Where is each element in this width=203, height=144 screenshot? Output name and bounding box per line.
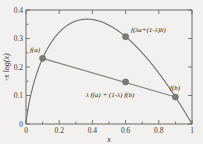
x-tick-label: 1	[190, 126, 194, 135]
x-tick-label: 0.6	[121, 126, 131, 135]
label-lambda-combo-f: λ f(a) + (1-λ) f(b)	[85, 91, 135, 99]
label-fa: f(a)	[30, 46, 41, 54]
x-axis-ticks	[26, 10, 192, 124]
y-tick-label: 0.3	[14, 34, 24, 43]
x-tick-label: 0	[24, 126, 28, 135]
y-axis-title: -x log(x)	[2, 53, 11, 81]
chart-figure: 0 0.1 0.2 0.3 0.4 0 0.2 0.4 0.6 0.8 1 x …	[0, 0, 203, 144]
point-marker-combo-of-f	[123, 79, 129, 85]
y-tick-label: 0	[19, 120, 23, 129]
point-marker-fa	[40, 55, 46, 61]
y-tick-label: 0.1	[14, 91, 24, 100]
y-axis-ticks	[26, 10, 192, 124]
x-tick-label: 0.8	[154, 126, 164, 135]
label-fb: f(b)	[170, 84, 181, 92]
x-tick-label: 0.2	[55, 126, 65, 135]
plot-frame	[26, 10, 192, 124]
concave-function-curve	[26, 19, 192, 124]
label-f-lambda-combo: f(λa+(1-λ)b)	[131, 26, 167, 34]
x-tick-label: 0.4	[88, 126, 98, 135]
x-axis-title: x	[106, 135, 111, 144]
y-tick-label: 0.2	[14, 63, 24, 72]
chart-canvas: 0 0.1 0.2 0.3 0.4 0 0.2 0.4 0.6 0.8 1 x …	[0, 0, 203, 144]
y-tick-labels: 0 0.1 0.2 0.3 0.4	[14, 6, 24, 129]
point-marker-fb	[172, 94, 178, 100]
x-tick-labels: 0 0.2 0.4 0.6 0.8 1	[24, 126, 194, 135]
y-tick-label: 0.4	[14, 6, 24, 15]
point-marker-f-of-combo	[123, 34, 129, 40]
